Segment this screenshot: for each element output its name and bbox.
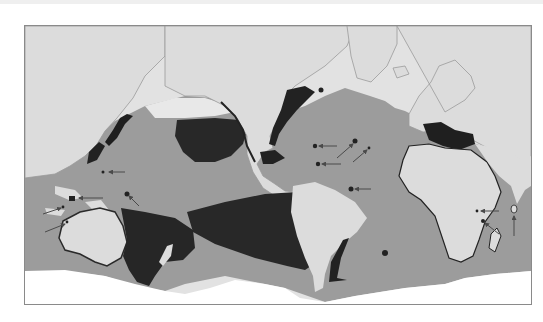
island-marker bbox=[316, 162, 320, 166]
top-strip bbox=[0, 0, 543, 4]
island-marker bbox=[62, 206, 65, 209]
sri-lanka-island bbox=[511, 205, 517, 213]
island-marker bbox=[353, 139, 358, 144]
island-marker bbox=[481, 219, 485, 223]
island-marker bbox=[319, 88, 324, 93]
island-marker bbox=[313, 144, 317, 148]
map-frame bbox=[24, 25, 532, 305]
island-marker bbox=[69, 196, 75, 201]
island-marker bbox=[349, 187, 354, 192]
world-map bbox=[25, 26, 531, 304]
island-marker bbox=[382, 250, 388, 256]
island-marker bbox=[66, 221, 69, 224]
island-marker bbox=[368, 147, 371, 150]
island-marker bbox=[476, 210, 479, 213]
island-marker bbox=[102, 171, 105, 174]
island-marker bbox=[125, 192, 130, 197]
